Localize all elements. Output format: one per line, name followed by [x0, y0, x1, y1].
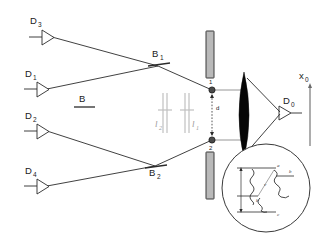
screen-bar-upper	[206, 31, 214, 78]
path-marker-group: l 2 l 1	[155, 93, 199, 133]
optics-diagram-root: D 3 D 1 D 2 D 4 D 0 B B 1 B 2	[0, 0, 328, 237]
converging-lens	[239, 72, 249, 158]
separation-label-d: d	[216, 105, 219, 111]
lens-group	[239, 72, 249, 158]
slit-label-1: 1	[209, 79, 213, 85]
detector-sub-d4: 4	[33, 171, 37, 178]
separation-arrow-head-up	[210, 94, 214, 98]
detector-sub-d1: 1	[33, 74, 37, 81]
path-marker-label-l1: l	[192, 119, 195, 129]
beamsplitter-label-b: B	[79, 93, 85, 104]
beam-b1-to-slit1	[158, 66, 212, 90]
x0-axis-group: x 0	[299, 70, 312, 146]
path-marker-sub-l2: 2	[159, 125, 162, 131]
detector-d2-symbol[interactable]	[37, 124, 49, 139]
x0-axis-label: x	[299, 70, 304, 81]
detector-label-d0: D	[283, 95, 290, 106]
detector-sub-d2: 2	[33, 116, 37, 123]
beamsplitter-label-b1: B	[152, 48, 158, 59]
detector-sub-d0: 0	[291, 101, 295, 108]
beamsplitter-sub-b2: 2	[157, 173, 161, 180]
beamsplitter-ticks	[74, 63, 170, 168]
x0-axis-arrow	[308, 83, 312, 88]
detector-label-d2: D	[25, 110, 32, 121]
screen-bar-lower	[206, 152, 214, 199]
detector-d3-symbol[interactable]	[42, 30, 54, 45]
detector-d4-symbol[interactable]	[37, 179, 49, 194]
slit-group: 1 2	[209, 79, 244, 151]
separation-arrow-head-down	[210, 132, 214, 136]
beam-b2-to-slit2	[155, 140, 212, 166]
detector-d0-symbol[interactable]	[279, 106, 291, 120]
inset-boundary-circle	[222, 144, 310, 232]
beam-path-group	[24, 37, 212, 186]
x0-axis-sub: 0	[305, 76, 309, 83]
detector-label-d3: D	[30, 15, 37, 26]
detector-label-d1: D	[25, 68, 32, 79]
slit-label-2: 2	[209, 145, 213, 151]
slit-node-2	[209, 137, 215, 143]
beam-d1-to-b1	[47, 66, 158, 89]
inset-atomic-diagram: a b c b ν	[222, 144, 310, 232]
screen-bars	[206, 31, 214, 199]
diagram-canvas: D 3 D 1 D 2 D 4 D 0 B B 1 B 2	[0, 0, 328, 237]
detector-sub-d3: 3	[38, 21, 42, 28]
beamsplitter-sub-b1: 1	[160, 54, 164, 61]
detector-d1-symbol[interactable]	[37, 82, 49, 97]
beam-b1-to-d3	[52, 37, 158, 66]
beamsplitter-label-b2: B	[149, 167, 155, 178]
converging-rays	[247, 78, 280, 152]
detector-label-d4: D	[25, 165, 32, 176]
separation-indicator: d	[210, 94, 219, 136]
path-marker-sub-l1: 1	[196, 125, 199, 131]
ray-lens-top-to-d0	[247, 78, 280, 112]
beam-b2-to-d4	[47, 166, 155, 186]
beam-d2-to-b2	[47, 131, 155, 166]
path-marker-label-l2: l	[155, 119, 158, 129]
slit-node-1	[209, 87, 215, 93]
